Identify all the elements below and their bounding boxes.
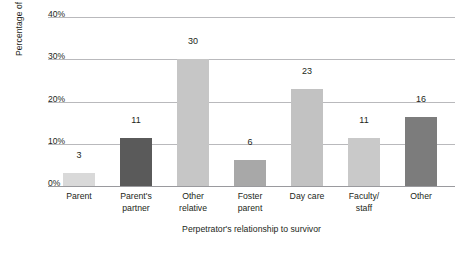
bar-foster-parent: [234, 160, 266, 186]
bar-series: 3 11 30 6 23 11 16: [48, 10, 455, 186]
category-line-1: Other: [164, 191, 222, 203]
category-label-other-relative: Other relative: [164, 191, 222, 214]
bar-other: [405, 117, 437, 186]
category-line-2: partner: [107, 203, 165, 215]
category-label-other: Other: [392, 191, 450, 203]
bar-value-other-relative: 30: [171, 36, 215, 46]
bar-parent: [63, 173, 95, 186]
bar-other-relative: [177, 59, 209, 186]
category-line-1: Other: [392, 191, 450, 203]
category-line-1: Faculty/: [335, 191, 393, 203]
category-label-parents-partner: Parent's partner: [107, 191, 165, 214]
category-line-1: Parent: [50, 191, 108, 203]
bar-value-parent: 3: [57, 150, 101, 160]
bar-faculty-staff: [348, 138, 380, 186]
y-axis-title: Percentage of victims: [14, 0, 24, 56]
bar-value-other: 16: [399, 94, 443, 104]
bar-value-faculty-staff: 11: [342, 115, 386, 125]
bar-parents-partner: [120, 138, 152, 186]
category-line-2: staff: [335, 203, 393, 215]
category-line-1: Day care: [278, 191, 336, 203]
category-label-faculty-staff: Faculty/ staff: [335, 191, 393, 214]
bar-chart: Percentage of victims 40% 30% 20% 10% 0%…: [0, 0, 475, 254]
category-line-2: relative: [164, 203, 222, 215]
category-line-1: Parent's: [107, 191, 165, 203]
bar-value-day-care: 23: [285, 66, 329, 76]
bar-value-foster-parent: 6: [228, 137, 272, 147]
category-line-1: Foster: [221, 191, 279, 203]
x-axis-title: Perpetrator's relationship to survivor: [48, 224, 455, 234]
category-line-2: parent: [221, 203, 279, 215]
bar-day-care: [291, 89, 323, 186]
bar-value-parents-partner: 11: [114, 115, 158, 125]
category-label-parent: Parent: [50, 191, 108, 203]
category-label-day-care: Day care: [278, 191, 336, 203]
category-label-foster-parent: Foster parent: [221, 191, 279, 214]
axis-baseline: [48, 186, 455, 187]
